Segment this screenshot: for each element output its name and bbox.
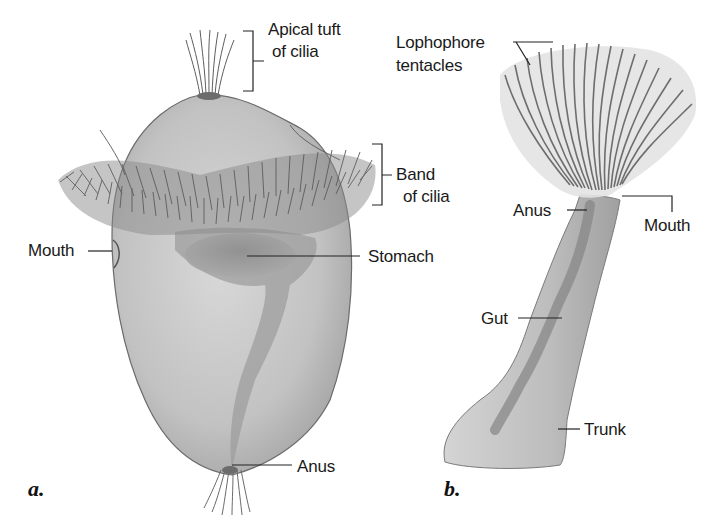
label-mouth-a: Mouth [28,241,74,260]
label-apical-tuft-line2: of cilia [272,42,319,61]
label-anus-a: Anus [297,457,335,476]
panel-letter-b: b. [444,476,461,502]
label-trunk: Trunk [584,420,626,439]
lophophorate-body [444,42,696,468]
label-band-line2: of cilia [403,187,450,206]
label-apical-tuft-line1: Apical tuft [268,20,340,39]
label-lophophore-line2: tentacles [396,56,462,75]
larva-body [58,30,392,515]
label-gut: Gut [481,309,508,328]
label-anus-b: Anus [513,201,551,220]
diagram-illustration [0,0,727,518]
lophophore-crown [500,46,696,198]
apical-tuft-cilia [186,30,234,100]
anal-cilia [204,466,250,515]
stomach-shape [185,233,295,277]
label-stomach: Stomach [368,247,434,266]
label-lophophore-line1: Lophophore [396,33,485,52]
panel-letter-a: a. [28,476,45,502]
label-mouth-b: Mouth [644,216,690,235]
figure-canvas: Apical tuft of cilia Band of cilia Mouth… [0,0,727,518]
label-band-line1: Band [396,165,435,184]
